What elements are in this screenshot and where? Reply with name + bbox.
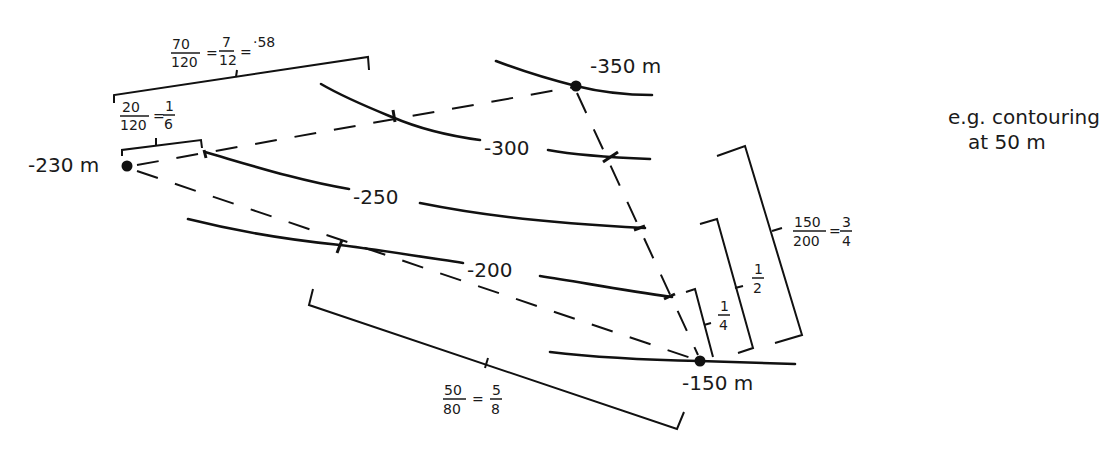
contour-200-right xyxy=(540,276,672,297)
svg-text:=: = xyxy=(206,45,218,61)
bracket-20-120 xyxy=(122,140,202,156)
contour-300-right xyxy=(548,150,650,159)
contour-250-left xyxy=(205,152,349,189)
svg-text:=: = xyxy=(829,223,841,239)
spot-label-350: -350 m xyxy=(590,54,661,78)
spot-150 xyxy=(695,356,706,367)
fraction-1-2: 1 2 xyxy=(752,261,764,296)
contour-label-200: -200 xyxy=(467,258,512,282)
svg-text:1: 1 xyxy=(720,298,729,314)
spot-350 xyxy=(571,81,582,92)
interpolation-ticks xyxy=(204,110,675,299)
fraction-1-4: 1 4 xyxy=(718,298,730,333)
svg-text:·58: ·58 xyxy=(253,34,275,50)
svg-text:3: 3 xyxy=(842,214,851,230)
svg-text:70: 70 xyxy=(172,36,190,52)
svg-text:120: 120 xyxy=(171,54,198,70)
interpolation-lines xyxy=(137,87,698,360)
fraction-70-120: 70 120 = 7 12 = ·58 xyxy=(171,34,275,70)
svg-text:4: 4 xyxy=(719,317,728,333)
contour-label-300: -300 xyxy=(484,136,529,160)
svg-text:12: 12 xyxy=(219,52,237,68)
fraction-50-80: 50 80 = 5 8 xyxy=(443,382,502,417)
svg-text:4: 4 xyxy=(842,233,851,249)
svg-text:1: 1 xyxy=(165,98,174,114)
line-230-to-150 xyxy=(137,171,697,360)
contour-150 xyxy=(550,352,795,364)
svg-text:6: 6 xyxy=(164,116,173,132)
svg-text:8: 8 xyxy=(491,401,500,417)
svg-text:80: 80 xyxy=(443,401,461,417)
note-line-1: e.g. contouring xyxy=(948,105,1100,129)
contour-interpolation-diagram: -230 m -350 m -150 m -300 -250 -200 70 1… xyxy=(0,0,1103,452)
svg-text:=: = xyxy=(472,391,484,407)
svg-text:200: 200 xyxy=(793,233,820,249)
fraction-20-120: 20 120 = 1 6 xyxy=(120,98,175,133)
contour-200-left xyxy=(188,219,463,263)
contour-300-left xyxy=(321,84,480,140)
spot-label-150: -150 m xyxy=(682,371,753,395)
svg-text:1: 1 xyxy=(754,261,763,277)
bracket-70-120 xyxy=(114,57,369,103)
svg-text:120: 120 xyxy=(120,117,147,133)
contour-250-right xyxy=(420,203,645,228)
svg-text:50: 50 xyxy=(444,382,462,398)
svg-text:2: 2 xyxy=(753,280,762,296)
svg-text:=: = xyxy=(153,108,165,124)
svg-text:20: 20 xyxy=(122,99,140,115)
svg-text:=: = xyxy=(240,44,252,60)
svg-text:5: 5 xyxy=(492,382,501,398)
bracket-150-200 xyxy=(717,146,802,343)
contour-lines xyxy=(188,61,795,364)
note-line-2: at 50 m xyxy=(968,130,1046,154)
fraction-150-200: 150 200 = 3 4 xyxy=(793,214,852,249)
spot-label-230: -230 m xyxy=(28,153,99,177)
svg-text:7: 7 xyxy=(222,34,231,50)
spot-230 xyxy=(122,161,133,172)
svg-text:150: 150 xyxy=(794,214,821,230)
contour-label-250: -250 xyxy=(353,185,398,209)
